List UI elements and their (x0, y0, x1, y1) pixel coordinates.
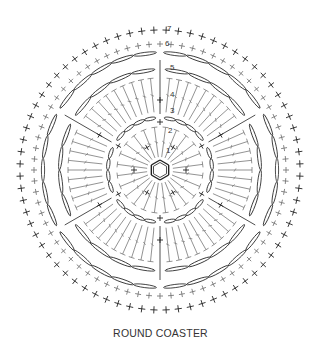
round-label-7: 7 (167, 24, 172, 33)
round-1-stitches (117, 127, 203, 213)
round-label-6: 6 (165, 39, 170, 48)
round-label-2: 2 (168, 126, 173, 135)
crochet-chart: 1 2 3 4 5 6 7 (0, 0, 321, 320)
round-label-4: 4 (170, 90, 175, 99)
diagram-caption: ROUND COASTER (0, 327, 321, 339)
center-ring (151, 160, 168, 180)
round-2-chains (106, 116, 214, 223)
round-label-3: 3 (170, 106, 175, 115)
round-label-1: 1 (166, 146, 171, 155)
round-number-labels: 1 2 3 4 5 6 7 (165, 24, 175, 155)
round-label-5: 5 (170, 63, 175, 72)
